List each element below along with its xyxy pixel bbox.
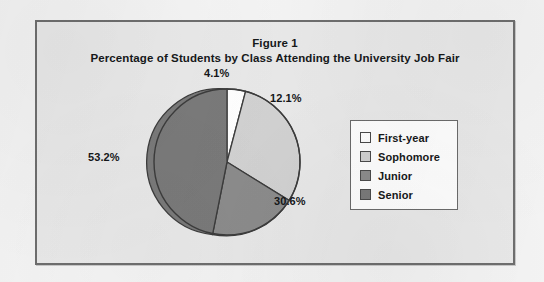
legend-swatch-sophomore xyxy=(360,151,371,162)
legend-label-first-year: First-year xyxy=(378,132,429,144)
chart-legend: First-year Sophomore Junior Senior xyxy=(350,120,458,210)
pie-label-sophomore: 12.1% xyxy=(270,92,302,104)
legend-item-junior: Junior xyxy=(360,166,457,185)
legend-item-first-year: First-year xyxy=(360,128,457,147)
pie-slice-senior xyxy=(147,89,227,235)
legend-item-sophomore: Sophomore xyxy=(360,147,457,166)
legend-label-senior: Senior xyxy=(378,189,413,201)
pie-label-senior: 53.2% xyxy=(88,151,120,163)
legend-label-sophomore: Sophomore xyxy=(378,151,440,163)
pie-label-first-year: 4.1% xyxy=(204,67,229,79)
legend-swatch-first-year xyxy=(360,132,371,143)
legend-swatch-junior xyxy=(360,170,371,181)
pie-label-junior: 30.6% xyxy=(274,195,306,207)
legend-swatch-senior xyxy=(360,189,371,200)
legend-item-senior: Senior xyxy=(360,185,457,204)
figure-frame: Figure 1 Percentage of Students by Class… xyxy=(35,20,515,265)
legend-label-junior: Junior xyxy=(378,170,412,182)
